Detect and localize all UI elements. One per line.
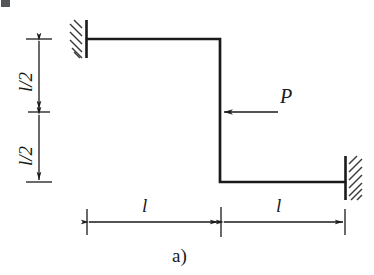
dimension-label-length-left: l [142, 196, 147, 215]
force-label-P: P [280, 86, 292, 106]
left-fixed-support [70, 20, 87, 58]
figure-caption: a) [172, 245, 187, 267]
right-fixed-support [346, 156, 363, 200]
frame-centerline-path [87, 39, 345, 182]
frame-diagram-svg [0, 0, 374, 275]
dimension-label-height-bottom: l/2 [16, 146, 35, 166]
horizontal-dimension-group [87, 207, 345, 237]
dimension-label-length-right: l [276, 196, 281, 215]
dimension-label-height-top: l/2 [16, 72, 35, 92]
figure-canvas: P l l l/2 l/2 a) [0, 0, 374, 275]
frame-members [87, 39, 345, 182]
